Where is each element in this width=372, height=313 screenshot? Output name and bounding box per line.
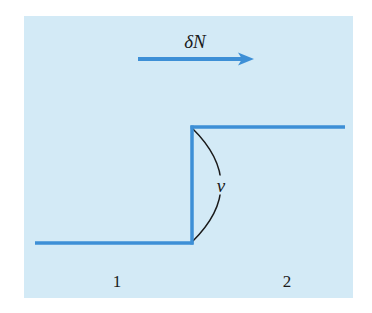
velocity-label: v: [216, 176, 226, 195]
flux-label: δN: [184, 32, 206, 51]
region-1-label: 1: [113, 273, 122, 290]
region-2-label: 2: [283, 273, 292, 290]
step-profile: [35, 126, 345, 245]
flux-arrow-icon: [138, 53, 254, 66]
